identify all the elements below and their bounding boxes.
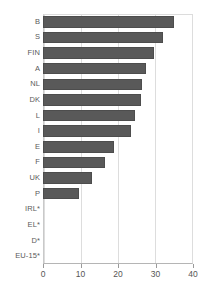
x-tick-label: 10 — [70, 270, 92, 279]
x-tick-mark — [156, 264, 157, 268]
category-label: L — [0, 112, 40, 120]
bar — [43, 157, 105, 169]
x-tick-label: 20 — [107, 270, 129, 279]
bar — [43, 47, 154, 59]
category-axis-labels: BSFINANLDKLIEFUKPIRL*EL*D*EU-15* — [0, 14, 40, 264]
category-label: F — [0, 158, 40, 166]
category-label: A — [0, 65, 40, 73]
x-tick-label: 40 — [182, 270, 204, 279]
category-label: I — [0, 127, 40, 135]
category-label: E — [0, 143, 40, 151]
category-label: NL — [0, 80, 40, 88]
bar — [43, 16, 174, 28]
category-label: DK — [0, 96, 40, 104]
category-label: P — [0, 190, 40, 198]
category-label: EL* — [0, 221, 40, 229]
bar — [43, 172, 92, 184]
bar — [43, 94, 141, 106]
x-tick-mark — [193, 264, 194, 268]
x-tick-mark — [81, 264, 82, 268]
bar — [43, 188, 79, 200]
x-tick-label: 0 — [32, 270, 54, 279]
bar — [43, 141, 114, 153]
bar — [43, 125, 131, 137]
bar — [43, 63, 146, 75]
x-tick-mark — [118, 264, 119, 268]
bar-chart: BSFINANLDKLIEFUKPIRL*EL*D*EU-15* 0102030… — [0, 0, 208, 291]
bar — [43, 79, 142, 91]
bars-layer — [43, 14, 193, 264]
category-label: FIN — [0, 49, 40, 57]
category-label: IRL* — [0, 205, 40, 213]
category-label: EU-15* — [0, 252, 40, 260]
category-label: UK — [0, 174, 40, 182]
category-label: S — [0, 33, 40, 41]
bar — [43, 32, 163, 44]
x-tick-mark — [43, 264, 44, 268]
category-label: D* — [0, 237, 40, 245]
bar — [43, 110, 135, 122]
category-label: B — [0, 18, 40, 26]
x-tick-label: 30 — [145, 270, 167, 279]
